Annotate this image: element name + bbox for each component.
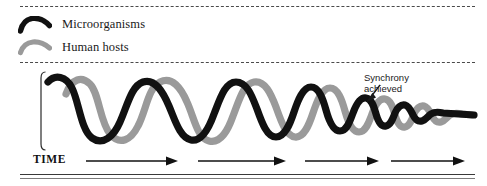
time-arrow-1 <box>86 156 178 165</box>
time-axis-label: TIME <box>33 153 66 165</box>
legend-label-human-hosts: Human hosts <box>62 40 129 55</box>
synchrony-annotation: Synchrony achieved <box>364 72 409 94</box>
legend-item-microorganisms: Microorganisms <box>18 13 278 36</box>
annotation-line-1: Synchrony <box>364 72 409 83</box>
time-arrow-2 <box>198 156 286 165</box>
annotation-line-2: achieved <box>364 83 409 94</box>
left-bracket <box>41 72 46 150</box>
figure-container: Microorganisms Human hosts <box>0 0 487 186</box>
black-brush-stroke-swatch <box>18 16 52 34</box>
time-axis: TIME <box>0 152 487 172</box>
time-arrow-4 <box>391 156 465 165</box>
legend-label-microorganisms: Microorganisms <box>62 17 145 32</box>
legend: Microorganisms Human hosts <box>18 13 278 59</box>
bottom-double-rule <box>20 174 475 179</box>
bottom-dashed-divider <box>20 62 475 63</box>
time-arrow-3 <box>305 156 379 165</box>
gray-brush-stroke-swatch <box>18 39 52 57</box>
oscillation-plot <box>0 68 487 158</box>
top-dashed-divider <box>20 6 475 7</box>
legend-item-human-hosts: Human hosts <box>18 36 278 59</box>
